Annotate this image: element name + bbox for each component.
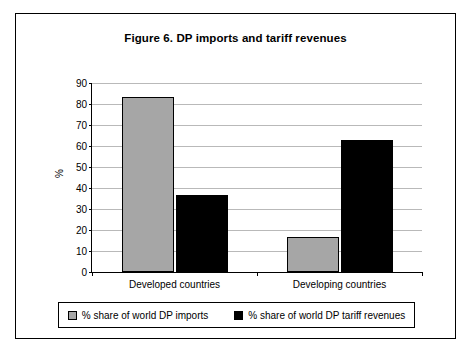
- y-tick-mark: [89, 209, 92, 210]
- x-tick-mark: [257, 272, 258, 276]
- chart-container: Figure 6. DP imports and tariff revenues…: [15, 13, 456, 339]
- legend-swatch-imports: [68, 311, 77, 320]
- bar: [341, 140, 393, 272]
- plot-area: 0102030405060708090Developed countriesDe…: [91, 83, 422, 273]
- x-tick-mark: [92, 272, 93, 276]
- y-tick-mark: [89, 188, 92, 189]
- y-tick-label: 20: [76, 225, 87, 236]
- y-tick-mark: [89, 146, 92, 147]
- bar: [122, 97, 174, 272]
- y-tick-label: 40: [76, 183, 87, 194]
- gridline: [92, 83, 422, 84]
- y-tick-label: 10: [76, 246, 87, 257]
- legend-swatch-tariff-revenues: [234, 311, 243, 320]
- y-tick-mark: [89, 125, 92, 126]
- y-tick-label: 50: [76, 162, 87, 173]
- y-tick-label: 60: [76, 141, 87, 152]
- bar: [287, 237, 339, 272]
- x-tick-label: Developing countries: [293, 279, 386, 290]
- y-tick-label: 90: [76, 78, 87, 89]
- y-tick-mark: [89, 167, 92, 168]
- bar: [176, 195, 228, 272]
- y-tick-label: 80: [76, 99, 87, 110]
- y-tick-mark: [89, 230, 92, 231]
- y-axis-title: %: [54, 169, 65, 178]
- legend-item: % share of world DP tariff revenues: [234, 310, 405, 321]
- y-tick-label: 70: [76, 120, 87, 131]
- legend-item: % share of world DP imports: [68, 310, 209, 321]
- y-tick-label: 30: [76, 204, 87, 215]
- legend-label-tariff-revenues: % share of world DP tariff revenues: [248, 310, 405, 321]
- legend-label-imports: % share of world DP imports: [82, 310, 209, 321]
- chart-title: Figure 6. DP imports and tariff revenues: [16, 32, 455, 44]
- x-tick-label: Developed countries: [129, 279, 220, 290]
- y-tick-mark: [89, 104, 92, 105]
- y-tick-mark: [89, 251, 92, 252]
- x-tick-mark: [422, 272, 423, 276]
- y-tick-mark: [89, 83, 92, 84]
- y-tick-label: 0: [81, 267, 87, 278]
- chart-legend: % share of world DP imports % share of w…: [58, 302, 415, 328]
